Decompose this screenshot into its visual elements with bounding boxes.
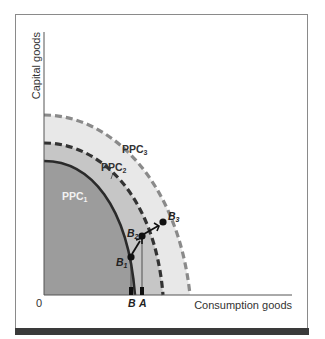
b3-label: B3 <box>168 210 180 223</box>
axis-marker-a-label: A <box>138 297 147 309</box>
origin-label: 0 <box>36 297 42 309</box>
point-b3 <box>159 218 166 225</box>
marker-a <box>140 287 144 295</box>
point-b1 <box>127 253 134 260</box>
axis-marker-b-label: B <box>128 297 136 309</box>
marker-b <box>129 287 133 295</box>
ppc-diagram: PPC1 PPC2 PPC3 B1 B2 B3 B A 0 Consumptio… <box>0 0 325 339</box>
x-axis-title: Consumption goods <box>194 299 292 311</box>
point-b2 <box>138 232 145 239</box>
ppc3-label: PPC3 <box>122 143 148 156</box>
y-axis-title: Capital goods <box>30 32 42 100</box>
